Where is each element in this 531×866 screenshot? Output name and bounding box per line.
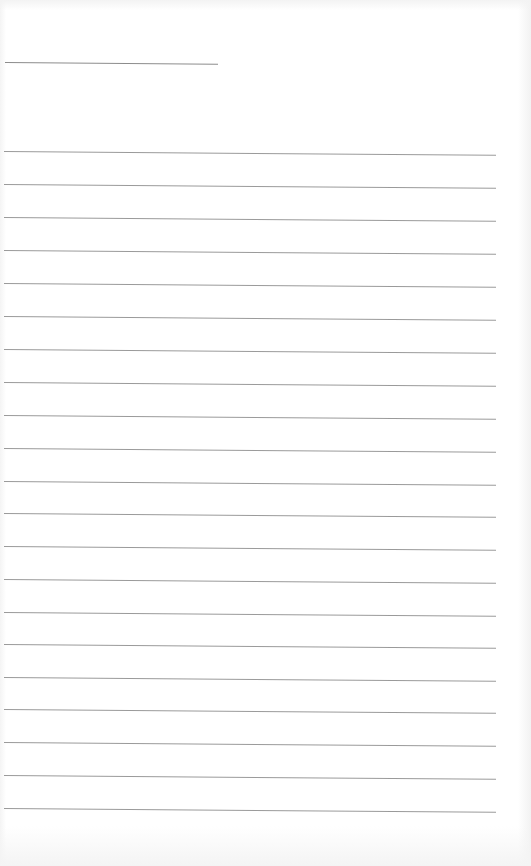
ruled-line [4,513,496,518]
ruled-line [4,415,496,420]
lined-notebook-page [0,0,531,866]
ruled-line [4,217,496,222]
ruled-line [4,250,496,255]
ruled-line [4,349,496,354]
ruled-line [4,579,496,584]
ruled-lines [0,0,531,866]
ruled-line [4,151,496,156]
ruled-line [4,742,496,747]
ruled-line [4,546,496,551]
ruled-line [4,677,496,682]
ruled-line [4,709,496,714]
ruled-line [4,316,496,321]
ruled-line [4,808,496,813]
ruled-line [4,644,496,649]
ruled-line [4,481,496,486]
ruled-line [4,382,496,387]
ruled-line [4,775,496,780]
ruled-line [4,612,496,617]
ruled-line [4,283,496,288]
ruled-line [4,448,496,453]
ruled-line [4,184,496,189]
